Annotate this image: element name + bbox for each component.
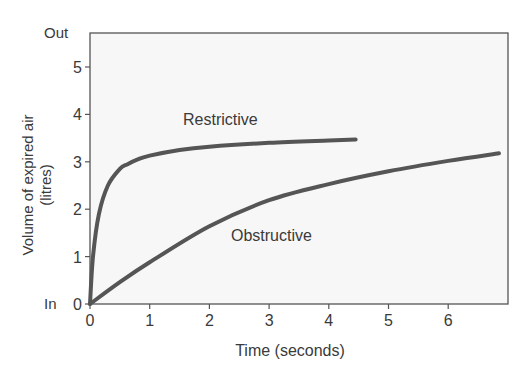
- x-tick-label: 5: [384, 312, 393, 329]
- y-tick-label: 5: [73, 59, 82, 76]
- x-tick-label: 2: [205, 312, 214, 329]
- y-axis-label: Volume of expired air: [19, 115, 36, 256]
- y-tick-label: 1: [73, 249, 82, 266]
- y-axis-label-units: (litres): [37, 164, 54, 206]
- y-tick-label: 3: [73, 154, 82, 171]
- x-tick-label: 4: [324, 312, 333, 329]
- y-annotation-out: Out: [44, 24, 69, 41]
- x-tick-label: 1: [145, 312, 154, 329]
- label-restrictive: Restrictive: [183, 111, 258, 128]
- x-axis: 0123456: [86, 304, 453, 329]
- y-annotation-in: In: [44, 295, 57, 312]
- spirometry-chart: 012345 0123456 Out In Volume of expired …: [0, 0, 523, 379]
- x-tick-label: 3: [265, 312, 274, 329]
- x-axis-label: Time (seconds): [235, 342, 345, 359]
- x-tick-label: 6: [444, 312, 453, 329]
- y-axis: 012345: [73, 59, 90, 313]
- y-tick-label: 4: [73, 106, 82, 123]
- label-obstructive: Obstructive: [231, 227, 312, 244]
- plot-area: [90, 33, 508, 304]
- x-tick-label: 0: [86, 312, 95, 329]
- y-tick-label: 2: [73, 201, 82, 218]
- y-tick-label: 0: [73, 296, 82, 313]
